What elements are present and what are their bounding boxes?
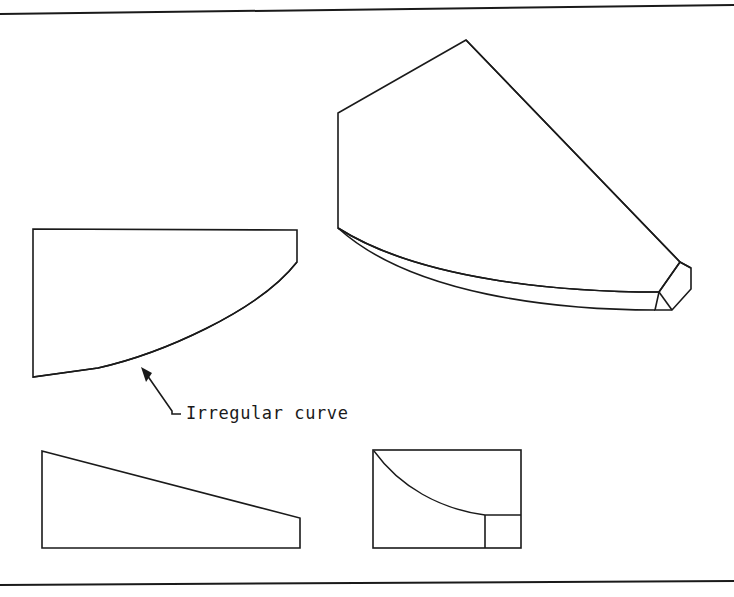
view-side <box>373 450 521 548</box>
top-view-irregular-curve <box>33 262 297 377</box>
technical-drawing-canvas: Irregular curve <box>0 0 734 597</box>
isometric-end-cap-inner-edge <box>659 292 672 310</box>
sheet-border-rules <box>0 5 734 585</box>
isometric-end-cap-top-edge <box>680 262 691 268</box>
view-isometric-pictorial <box>338 40 691 310</box>
isometric-right-end-cap <box>655 262 691 310</box>
side-view-outline <box>373 450 521 548</box>
annotation-leader-line <box>147 375 181 414</box>
bottom-border-rule <box>0 581 734 585</box>
annotation-label: Irregular curve <box>186 403 349 423</box>
isometric-slope-edge <box>466 40 680 262</box>
view-top <box>33 229 297 377</box>
isometric-top-face <box>338 40 680 292</box>
front-view-outline <box>42 451 300 548</box>
top-view-outline <box>33 229 297 377</box>
view-front <box>42 451 300 548</box>
top-border-rule <box>0 5 734 14</box>
side-view-irregular-curve <box>374 451 485 515</box>
isometric-skirt-bottom-curve <box>338 228 655 310</box>
drawing-sheet: Irregular curve <box>0 0 734 597</box>
annotation-irregular-curve: Irregular curve <box>141 367 349 423</box>
